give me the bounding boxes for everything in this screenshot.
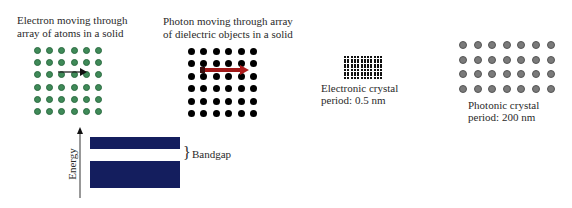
conduction-band [90,137,180,149]
energy-axis-label: Energy [66,148,78,180]
bandgap-label: Bandgap [192,148,231,160]
brace-icon: } [183,145,191,161]
valence-band [90,161,180,188]
energy-axis-arrow-icon [0,0,572,208]
